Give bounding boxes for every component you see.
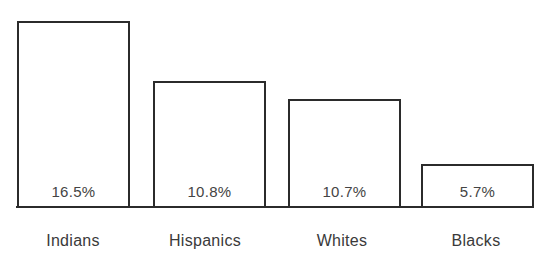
bar-hispanics: 10.8% — [153, 81, 266, 206]
bar-whites: 10.7% — [288, 99, 401, 206]
bar-value-label: 5.7% — [423, 183, 532, 200]
bar-value-label: 16.5% — [19, 183, 128, 200]
bar-indians: 16.5% — [17, 21, 130, 206]
category-label-blacks: Blacks — [411, 232, 541, 250]
category-label-hispanics: Hispanics — [140, 232, 270, 250]
bar-value-label: 10.7% — [290, 183, 399, 200]
category-label-whites: Whites — [277, 232, 407, 250]
category-label-indians: Indians — [8, 232, 138, 250]
bar-value-label: 10.8% — [155, 183, 264, 200]
bar-blacks: 5.7% — [421, 164, 534, 206]
x-axis-baseline — [16, 206, 534, 208]
